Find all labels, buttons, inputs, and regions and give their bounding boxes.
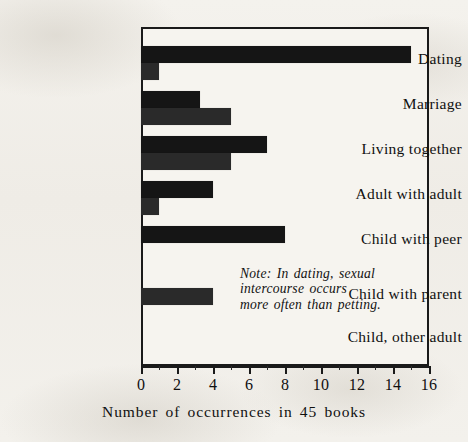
bar-child-with-peer-series-1 xyxy=(141,226,285,243)
x-tick-label-6: 6 xyxy=(245,376,253,394)
bar-living-together-series-1 xyxy=(141,136,267,153)
category-label-child-other-adult: Child, other adult xyxy=(332,328,468,346)
category-label-living-together: Living together xyxy=(332,140,468,158)
x-tick-major-14 xyxy=(393,366,395,374)
x-tick-label-16: 16 xyxy=(421,376,437,394)
x-tick-minor-3 xyxy=(195,366,196,370)
bar-chart-figure: Dating Marriage Living together Adult wi… xyxy=(0,0,468,442)
x-tick-major-16 xyxy=(429,366,431,374)
x-tick-label-10: 10 xyxy=(313,376,329,394)
category-label-child-with-peer: Child with peer xyxy=(332,230,468,248)
x-tick-minor-7 xyxy=(267,366,268,370)
category-label-adult-with-adult: Adult with adult xyxy=(332,185,468,203)
x-tick-major-4 xyxy=(213,366,215,374)
x-tick-major-10 xyxy=(321,366,323,374)
x-tick-major-12 xyxy=(357,366,359,374)
x-tick-minor-5 xyxy=(231,366,232,370)
x-tick-major-6 xyxy=(249,366,251,374)
x-tick-label-12: 12 xyxy=(349,376,365,394)
bar-adult-with-adult-series-1 xyxy=(141,181,213,198)
x-tick-minor-1 xyxy=(159,366,160,370)
x-tick-label-2: 2 xyxy=(173,376,181,394)
bar-marriage-series-2 xyxy=(141,108,231,125)
x-tick-label-4: 4 xyxy=(209,376,217,394)
x-tick-major-2 xyxy=(177,366,179,374)
bar-child-with-parent-series-2 xyxy=(141,288,213,305)
bar-dating-series-2 xyxy=(141,63,159,80)
x-tick-label-8: 8 xyxy=(281,376,289,394)
bar-living-together-series-2 xyxy=(141,153,231,170)
x-tick-minor-13 xyxy=(375,366,376,370)
x-tick-major-0 xyxy=(141,366,143,374)
x-tick-minor-9 xyxy=(303,366,304,370)
bar-adult-with-adult-series-2 xyxy=(141,198,159,215)
x-tick-label-14: 14 xyxy=(385,376,401,394)
x-axis-title: Number of occurrences in 45 books xyxy=(0,403,468,421)
chart-note-line-3: more often than petting. xyxy=(240,297,426,312)
bar-marriage-series-1 xyxy=(141,91,200,108)
bar-dating-series-1 xyxy=(141,46,411,63)
x-tick-major-8 xyxy=(285,366,287,374)
chart-note-line-1: Note: In dating, sexual xyxy=(240,266,426,281)
x-tick-minor-15 xyxy=(411,366,412,370)
category-label-marriage: Marriage xyxy=(332,95,468,113)
chart-note: Note: In dating, sexual intercourse occu… xyxy=(240,266,426,312)
x-tick-label-0: 0 xyxy=(137,376,145,394)
x-tick-minor-11 xyxy=(339,366,340,370)
chart-note-line-2: intercourse occurs xyxy=(240,281,426,296)
